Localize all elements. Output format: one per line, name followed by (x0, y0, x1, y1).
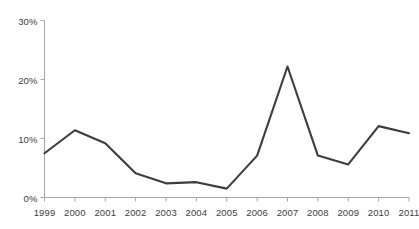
x-axis-tick-label: 2010 (368, 207, 390, 218)
x-axis-tick-label: 2001 (94, 207, 116, 218)
data-series-line (45, 67, 410, 189)
y-axis-tick-label: 30% (2, 15, 38, 26)
chart-axes (45, 21, 410, 198)
chart-tick-marks (41, 21, 410, 202)
x-axis-tick-label: 2002 (125, 207, 147, 218)
x-axis-tick-label: 2007 (277, 207, 299, 218)
x-axis-tick-label: 2009 (337, 207, 359, 218)
x-axis-tick-label: 1999 (34, 207, 56, 218)
x-axis-tick-label: 2004 (186, 207, 208, 218)
x-axis-tick-label: 2006 (246, 207, 268, 218)
y-axis-tick-label: 20% (2, 74, 38, 85)
x-axis-tick-label: 2003 (155, 207, 177, 218)
x-axis-tick-label: 2000 (64, 207, 86, 218)
x-axis-tick-label: 2008 (307, 207, 329, 218)
y-axis-tick-label: 0% (2, 192, 38, 203)
x-axis-tick-label: 2011 (399, 207, 419, 218)
line-chart: 0%10%20%30% 1999200020012002200320042005… (0, 0, 419, 229)
x-axis-tick-label: 2005 (216, 207, 238, 218)
y-axis-tick-label: 10% (2, 133, 38, 144)
chart-plot-area (0, 0, 419, 229)
